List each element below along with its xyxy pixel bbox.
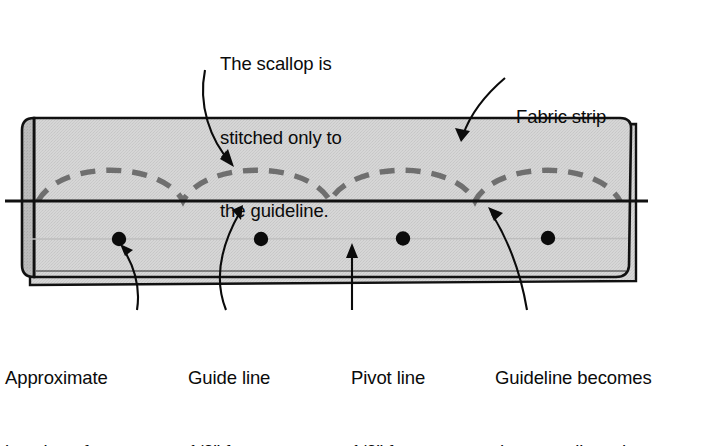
scallop-stitch-note: The scallop is stitched only to the guid… — [220, 3, 342, 273]
pivot-dot — [541, 231, 555, 245]
pivot-line-label-line-2: 1/2" from — [351, 440, 426, 446]
pivot-points-label: Approximate location of pivot points — [5, 317, 108, 446]
guide-line-label: Guide line 1/2" from the pivot line — [188, 317, 290, 446]
scallop-stitch-note-line-2: stitched only to — [220, 126, 342, 151]
scallop-stitch-note-line-3: the guideline. — [220, 199, 342, 224]
seam-line-label-line-1: Guideline becomes — [495, 366, 653, 391]
pivot-line-label-line-1: Pivot line — [351, 366, 426, 391]
fabric-strip-label: Fabric strip — [516, 56, 606, 179]
pivot-points-label-line-1: Approximate — [5, 366, 108, 391]
seam-line-label-line-2: the seam line when — [495, 440, 653, 446]
fabric-strip-label-line-1: Fabric strip — [516, 105, 606, 130]
diagram-canvas: The scallop is stitched only to the guid… — [0, 0, 720, 446]
pivot-dot — [112, 232, 126, 246]
pivot-points-label-line-2: location of — [5, 440, 108, 446]
scallop-stitch-note-line-1: The scallop is — [220, 52, 342, 77]
pivot-dot — [396, 231, 410, 245]
seam-line-label: Guideline becomes the seam line when sti… — [495, 317, 653, 446]
guide-line-label-line-1: Guide line — [188, 366, 290, 391]
guide-line-label-line-2: 1/2" from — [188, 440, 290, 446]
pivot-line-label: Pivot line 1/2" from raw edge — [351, 317, 426, 446]
